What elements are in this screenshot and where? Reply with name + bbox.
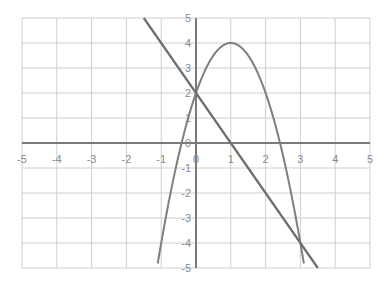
y-tick-label: -2 xyxy=(181,187,191,199)
x-tick-label: -1 xyxy=(156,153,166,165)
y-tick-label: 2 xyxy=(185,87,191,99)
x-tick-label: 5 xyxy=(367,153,373,165)
x-tick-label: 1 xyxy=(228,153,234,165)
coordinate-plane-chart: -5-4-3-2-101234554321-1-2-3-4-50 xyxy=(0,0,392,287)
y-tick-label: -4 xyxy=(181,237,191,249)
x-tick-label: 2 xyxy=(263,153,269,165)
x-tick-label: -2 xyxy=(122,153,132,165)
x-tick-label: 0 xyxy=(193,153,199,165)
origin-label: 0 xyxy=(185,137,191,149)
y-tick-label: -5 xyxy=(181,262,191,274)
x-tick-label: 4 xyxy=(332,153,338,165)
y-tick-label: 5 xyxy=(185,12,191,24)
x-tick-label: -5 xyxy=(17,153,27,165)
x-tick-label: -3 xyxy=(87,153,97,165)
y-tick-label: -3 xyxy=(181,212,191,224)
x-tick-label: 3 xyxy=(297,153,303,165)
y-tick-label: 3 xyxy=(185,62,191,74)
y-tick-label: -1 xyxy=(181,162,191,174)
x-tick-label: -4 xyxy=(52,153,62,165)
axes xyxy=(22,18,370,268)
y-tick-label: 4 xyxy=(185,37,191,49)
